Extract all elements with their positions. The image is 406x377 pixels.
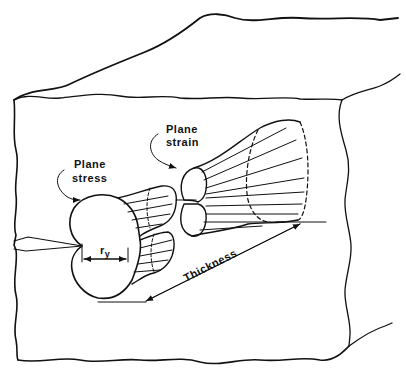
- ry-label: ry: [100, 244, 110, 259]
- plane-stress-callout: Plane stress: [57, 158, 107, 200]
- crack-notch: [14, 237, 82, 251]
- ry-dimension: ry: [82, 244, 128, 262]
- plane-strain-callout: Plane strain: [151, 123, 199, 168]
- plane-strain-label-line1: Plane: [166, 123, 198, 135]
- plane-stress-label-line1: Plane: [74, 158, 106, 170]
- thickness-label: Thickness: [181, 247, 238, 284]
- diagram-canvas: ry Thickness Plane stress Plane strain: [0, 0, 406, 377]
- plane-stress-label-line2: stress: [72, 172, 107, 184]
- plane-stress-zone: [70, 186, 177, 298]
- plastic-zone-diagram: ry Thickness Plane stress Plane strain: [0, 0, 406, 377]
- thickness-dimension: Thickness: [98, 222, 326, 302]
- specimen-outline: [14, 14, 400, 363]
- plane-strain-label-line2: strain: [166, 136, 199, 148]
